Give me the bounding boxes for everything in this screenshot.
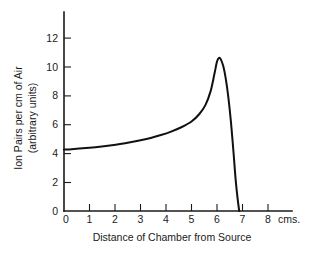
y-axis-ticks [64, 38, 71, 182]
x-tick-label-3: 3 [138, 213, 144, 225]
x-tick-label-8: 8 [265, 213, 271, 225]
y-axis-label-line1: Ion Pairs per cm of Air [12, 66, 24, 170]
y-tick-label-4: 4 [52, 147, 58, 159]
y-tick-label-6: 6 [52, 118, 58, 130]
y-tick-label-8: 8 [52, 89, 58, 101]
x-tick-label-0: 0 [63, 213, 69, 225]
y-tick-label-2: 2 [52, 176, 58, 188]
y-tick-label-0: 0 [52, 205, 58, 217]
x-tick-label-5: 5 [189, 213, 195, 225]
x-axis-tick-labels: 0 1 2 3 4 5 6 7 8 cms. [63, 213, 300, 225]
x-axis-ticks [90, 204, 269, 211]
x-tick-label-4: 4 [163, 213, 169, 225]
x-tick-label-7: 7 [240, 213, 246, 225]
x-axis-unit-label: cms. [278, 213, 300, 225]
y-tick-label-12: 12 [46, 32, 58, 44]
y-tick-label-10: 10 [46, 61, 58, 73]
y-axis-tick-labels: 12 10 8 6 4 2 0 [46, 32, 58, 217]
y-axis-label: Ion Pairs per cm of Air (arbitrary units… [12, 66, 38, 170]
ionization-curve [64, 58, 239, 211]
y-axis-label-line2: (arbitrary units) [26, 83, 38, 154]
x-tick-label-2: 2 [112, 213, 118, 225]
x-axis-title: Distance of Chamber from Source [93, 231, 252, 243]
x-tick-label-1: 1 [87, 213, 93, 225]
bragg-curve-chart: Ion Pairs per cm of Air (arbitrary units… [0, 0, 316, 253]
x-tick-label-6: 6 [214, 213, 220, 225]
chart-page: Ion Pairs per cm of Air (arbitrary units… [0, 0, 316, 253]
